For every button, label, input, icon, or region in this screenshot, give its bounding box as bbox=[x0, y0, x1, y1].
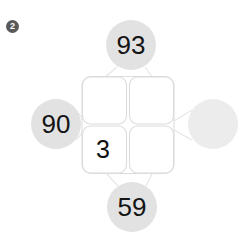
bubble-left-value[interactable]: 90 bbox=[31, 99, 81, 149]
grid-cell-bottom-left-value[interactable]: 3 bbox=[80, 125, 126, 173]
grid-cell-top-right-value[interactable] bbox=[128, 77, 174, 125]
grid-cell-bottom-right-value[interactable] bbox=[128, 125, 174, 173]
grid-cell-top-left-value[interactable] bbox=[82, 77, 128, 125]
bubble-top-value[interactable]: 93 bbox=[106, 20, 156, 70]
puzzle-root: 2 bbox=[0, 0, 239, 234]
bubble-bottom-value[interactable]: 59 bbox=[107, 182, 157, 232]
bubble-right-value[interactable] bbox=[188, 99, 238, 149]
